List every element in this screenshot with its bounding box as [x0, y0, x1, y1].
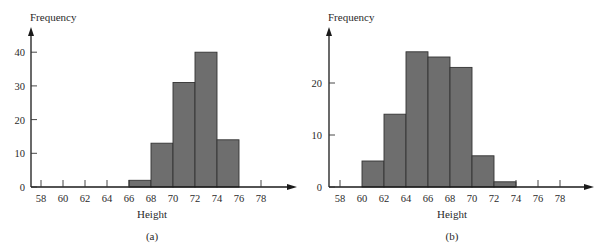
y-ticks-a: 0 10 20 30 40 [15, 47, 38, 193]
bar-66-68 [428, 57, 450, 187]
y-tick-label: 0 [20, 182, 25, 193]
y-axis-title-b: Frequency [328, 11, 375, 23]
y-tick-label: 10 [312, 130, 323, 141]
x-tick-label: 58 [335, 193, 346, 204]
bar-74-76 [217, 140, 239, 187]
x-axis-arrow-icon [584, 184, 594, 190]
x-tick-label: 64 [102, 193, 113, 204]
panel-label-b: (b) [446, 230, 459, 243]
histogram-a: Frequency 0 10 20 30 40 [15, 11, 298, 243]
y-ticks-b: 0 10 20 [312, 78, 336, 193]
x-tick-label: 62 [379, 193, 390, 204]
bars-b [362, 52, 516, 187]
x-axis-arrow-icon [287, 184, 297, 190]
x-tick-label: 78 [256, 193, 267, 204]
x-tick-label: 76 [533, 193, 544, 204]
x-tick-label: 66 [124, 193, 135, 204]
histogram-figure: Frequency 0 10 20 30 40 [0, 0, 606, 250]
bars-a [129, 52, 239, 187]
bar-70-72 [173, 83, 195, 188]
y-tick-label: 40 [15, 47, 26, 58]
x-tick-label: 72 [190, 193, 201, 204]
y-tick-label: 20 [312, 78, 323, 89]
y-axis-title-a: Frequency [30, 11, 77, 23]
y-axis-arrow-icon [28, 27, 34, 36]
x-tick-label: 66 [423, 193, 434, 204]
y-tick-label: 10 [15, 148, 26, 159]
x-tick-label: 72 [489, 193, 500, 204]
x-tick-label: 64 [401, 193, 412, 204]
x-tick-label: 74 [511, 193, 522, 204]
x-tick-label: 78 [555, 193, 566, 204]
bar-62-64 [384, 114, 406, 187]
x-tick-label: 68 [445, 193, 456, 204]
x-tick-label: 74 [212, 193, 223, 204]
x-tick-label: 70 [467, 193, 478, 204]
x-tick-label: 76 [234, 193, 245, 204]
x-tick-label: 60 [58, 193, 69, 204]
panel-label-a: (a) [146, 230, 159, 243]
x-tick-label: 58 [36, 193, 47, 204]
y-tick-label: 0 [317, 182, 322, 193]
y-axis-arrow-icon [326, 27, 332, 36]
bar-70-72 [472, 156, 494, 187]
histogram-b: Frequency 0 10 20 [312, 11, 595, 243]
x-axis-title-a: Height [137, 208, 167, 220]
bar-64-66 [406, 52, 428, 187]
y-tick-label: 20 [15, 115, 26, 126]
x-tick-label: 68 [146, 193, 157, 204]
bar-60-62 [362, 161, 384, 187]
bar-72-74 [195, 52, 217, 187]
bar-68-70 [450, 67, 472, 187]
y-tick-label: 30 [15, 81, 26, 92]
x-tick-label: 70 [168, 193, 179, 204]
bar-68-70 [151, 143, 173, 187]
x-axis-title-b: Height [437, 208, 467, 220]
x-tick-label: 62 [80, 193, 91, 204]
bar-66-68 [129, 180, 151, 187]
bar-72-74 [494, 182, 516, 187]
x-tick-label: 60 [357, 193, 368, 204]
